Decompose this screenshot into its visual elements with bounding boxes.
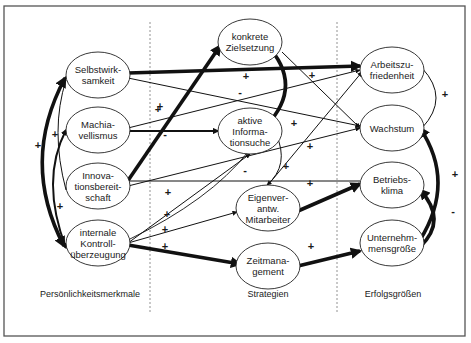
edge-sign-eigenverantwortung-to-arbeitszufriedenheit: +: [307, 140, 313, 152]
node-betriebsklima: Betriebs-klima: [360, 162, 424, 208]
node-informationsuche: aktiveInforma-tionsuche: [218, 108, 282, 154]
node-label-line: überzeugung: [70, 249, 125, 260]
edge-sign-eigenverantwortung-to-betriebsklima: +: [307, 177, 313, 189]
edge-sign-innovationsbereitschaft-to-betriebsklima: -: [243, 164, 247, 176]
node-eigenverantwortung: Eigenver-antw.Mitarbeiter: [236, 185, 300, 231]
node-label-line: Wachstum: [370, 123, 415, 134]
edge-sign-kontrollueberzeugung-to-zeitmanagement: +: [162, 240, 168, 252]
column-label-outcomes: Erfolgsgrößen: [365, 289, 422, 299]
node-label-line: Mitarbeiter: [246, 214, 291, 225]
node-arbeitszufriedenheit: Arbeitszu-friedenheit: [360, 47, 424, 93]
node-label-line: schaft: [85, 192, 111, 203]
node-label-line: tionsbereit-: [75, 181, 122, 192]
node-label-line: Betriebs-: [373, 174, 411, 185]
node-label-line: Arbeitszu-: [371, 59, 414, 70]
node-label-line: Unternehm-: [367, 232, 417, 243]
edge-sign-unternehmensgroesse-to-wachstum: +: [452, 168, 458, 180]
node-selbstwirksamkeit: Selbstwirk-samkeit: [66, 52, 130, 98]
node-machiavellismus: Machia-vellismus: [66, 107, 130, 153]
edge-sign-unternehmensgroesse-to-betriebsklima: -: [451, 205, 455, 217]
node-label-line: Selbstwirk-: [75, 64, 121, 75]
edge-sign-zeitmanagement-to-unternehmensgroesse: +: [308, 240, 314, 252]
edge-sign-innovationsbereitschaft-to-wachstum: +: [291, 117, 297, 129]
node-label-line: Zielsetzung: [226, 42, 275, 53]
column-label-traits: Persönlichkeitsmerkmale: [40, 289, 140, 299]
causal-diagram: +-+-++-+++++++++++-+++ Selbstwirk-samkei…: [0, 0, 471, 343]
node-label-line: Eigenver-: [248, 192, 289, 203]
node-label-line: mensgröße: [368, 243, 416, 254]
node-label-line: Innova-: [82, 170, 114, 181]
edge-sign-kontrollueberzeugung-to-eigenverantwortung: +: [162, 223, 168, 235]
node-label-line: aktive: [238, 115, 263, 126]
node-label-line: Machia-: [81, 119, 115, 130]
diagram-canvas: +-+-++-+++++++++++-+++ Selbstwirk-samkei…: [0, 0, 471, 343]
edge-sign-informationsuche-to-eigenverantwortung: +: [283, 160, 289, 172]
node-wachstum: Wachstum: [360, 105, 424, 151]
edge-sign-machiavellismus-to-informationsuche: -: [163, 128, 167, 140]
edge-sign-arbeitszufriedenheit-to-wachstum: +: [442, 88, 448, 100]
node-label-line: internale: [80, 227, 116, 238]
node-label-line: samkeit: [82, 75, 115, 86]
node-label-line: vellismus: [78, 130, 117, 141]
edge-sign-machiavellismus-to-kontrollueberzeugung: +: [52, 128, 58, 140]
node-label-line: klima: [381, 185, 404, 196]
node-label-line: antw.: [257, 203, 279, 214]
node-label-line: Informa-: [232, 126, 267, 137]
node-label-line: konkrete: [232, 31, 268, 42]
edge-sign-selbstwirksamkeit-to-arbeitszufriedenheit: +: [243, 70, 249, 82]
node-label-line: tionsuche: [230, 137, 271, 148]
node-kontrollueberzeugung: internaleKontroll-überzeugung: [66, 220, 130, 266]
edge-sign-kontrollueberzeugung-to-zielsetzung: +: [165, 186, 171, 198]
edge-sign-selbstwirksamkeit-to-kontrollueberzeugung: +: [35, 139, 41, 151]
node-innovationsbereitschaft: Innova-tionsbereit-schaft: [66, 163, 130, 209]
edge-sign-innovationsbereitschaft-to-selbstwirksamkeit: +: [57, 200, 63, 212]
node-unternehmensgroesse: Unternehm-mensgröße: [360, 220, 424, 266]
node-label-line: Kontroll-: [80, 238, 115, 249]
node-zeitmanagement: Zeitmana-gement: [236, 243, 300, 289]
node-label-line: gement: [252, 266, 284, 277]
edge-sign-selbstwirksamkeit-to-wachstum: -: [238, 86, 242, 98]
node-label-line: friedenheit: [370, 70, 415, 81]
edge-sign-zielsetzung-to-wachstum: +: [309, 69, 315, 81]
edge-sign-innovationsbereitschaft-to-zielsetzung: +: [157, 100, 163, 112]
node-label-line: Zeitmana-: [247, 255, 290, 266]
node-zielsetzung: konkreteZielsetzung: [218, 19, 282, 65]
column-label-strategies: Strategien: [247, 289, 288, 299]
edge-sign-kontrollueberzeugung-to-informationsuche: +: [164, 208, 170, 220]
